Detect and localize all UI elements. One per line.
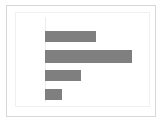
bar-row-3[interactable] <box>45 89 62 100</box>
plot-area <box>16 13 149 106</box>
chart-card <box>6 5 156 117</box>
bar-row-1[interactable] <box>45 50 132 63</box>
bar-row-2[interactable] <box>45 70 81 81</box>
bar-row-0[interactable] <box>45 31 96 42</box>
plot-frame <box>15 12 150 107</box>
